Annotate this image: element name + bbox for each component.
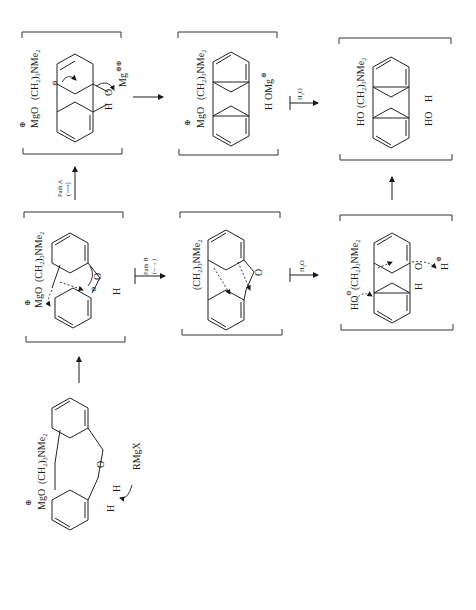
labels-mm: (CH2)3NMe2 O xyxy=(191,240,264,290)
structure-tl xyxy=(57,54,108,142)
svg-text:⊖: ⊖ xyxy=(51,80,59,86)
svg-text:H: H xyxy=(111,485,122,492)
svg-text:(CH2)3NMe2: (CH2)3NMe2 xyxy=(36,434,48,484)
path-b-label: Path B xyxy=(142,257,149,275)
svg-text:RMgX: RMgX xyxy=(131,441,142,470)
svg-text:⊕: ⊕ xyxy=(183,119,192,126)
svg-text:H: H xyxy=(111,288,122,295)
labels-mr: HO ⊖ (CH2)3NMe2 H O H ⊕ xyxy=(345,240,450,310)
svg-text:O: O xyxy=(413,263,424,270)
svg-text:H: H xyxy=(423,95,434,102)
svg-text:OMg: OMg xyxy=(263,79,274,100)
structure-mm xyxy=(208,230,254,330)
svg-text:(CH2)3NMe2: (CH2)3NMe2 xyxy=(349,240,361,290)
path-a-label: Path A xyxy=(56,179,63,197)
svg-text:H: H xyxy=(105,505,116,512)
svg-text:H: H xyxy=(439,263,450,270)
svg-text:H: H xyxy=(263,103,274,110)
svg-text:(CH2)3NMe2: (CH2)3NMe2 xyxy=(33,232,45,282)
reaction-arrows xyxy=(75,96,392,383)
svg-text:H: H xyxy=(103,103,114,110)
path-b-sublabel: (--→) xyxy=(150,259,158,274)
svg-text:HO: HO xyxy=(423,112,434,126)
svg-text:O: O xyxy=(95,461,106,468)
svg-text:O: O xyxy=(92,273,103,280)
svg-text:(CH2)3NMe2: (CH2)3NMe2 xyxy=(29,50,41,100)
svg-text:H: H xyxy=(413,283,424,290)
svg-text:O: O xyxy=(253,269,264,276)
svg-text:⊕: ⊕ xyxy=(260,72,268,78)
svg-text:⊕⊕: ⊕⊕ xyxy=(115,60,123,72)
svg-text:MgO: MgO xyxy=(36,489,47,510)
h2o-label-top: H2O xyxy=(296,88,305,100)
svg-text:⊕: ⊕ xyxy=(18,121,27,128)
svg-text:HO: HO xyxy=(355,112,366,126)
labels-tl: ⊕ MgO (CH2)3NMe2 ⊖ H O Mg ⊕⊕ xyxy=(18,50,128,128)
svg-text:MgO: MgO xyxy=(195,107,206,128)
svg-text:MgO: MgO xyxy=(33,287,44,308)
svg-text:Mg: Mg xyxy=(117,73,128,87)
labels-start: ⊕ MgO (CH2)3NMe2 O H H RMgX xyxy=(24,434,142,512)
arrow-labels: Path A (⟶) Path B (--→) H2O H2O xyxy=(56,88,307,275)
reaction-scheme: Path A (⟶) Path B (--→) H2O H2O xyxy=(0,0,476,610)
h2o-label-mid: H2O xyxy=(298,260,307,272)
structure-tr xyxy=(373,57,409,148)
path-a-sublabel: (⟶) xyxy=(64,182,72,196)
svg-text:⊕: ⊕ xyxy=(435,256,443,262)
svg-text:HO: HO xyxy=(349,296,360,310)
svg-text:⊕: ⊕ xyxy=(24,499,33,506)
labels-tr: HO (CH2)3NMe2 HO H xyxy=(355,58,434,126)
svg-text:(CH2)3NMe2: (CH2)3NMe2 xyxy=(195,50,207,100)
svg-text:⊕: ⊕ xyxy=(23,299,32,306)
structure-tm xyxy=(213,52,249,146)
structure-mr xyxy=(374,233,410,323)
svg-text:(CH2)3NMe2: (CH2)3NMe2 xyxy=(191,240,203,290)
svg-text:⊖: ⊖ xyxy=(90,286,98,292)
svg-text:O: O xyxy=(103,89,114,96)
labels-ml: ⊕ MgO (CH2)3NMe2 O ⊖ H xyxy=(23,232,122,308)
svg-text:MgO: MgO xyxy=(29,107,40,128)
svg-text:(CH2)3NMe2: (CH2)3NMe2 xyxy=(355,58,367,108)
